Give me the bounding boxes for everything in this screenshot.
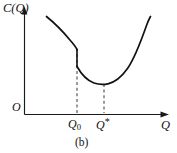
- tick-label-qstar-base: Q: [96, 118, 105, 132]
- tick-label-q0: Q0: [68, 118, 81, 132]
- cost-curve-branch-2: [77, 17, 151, 85]
- tick-label-q0-base: Q: [68, 117, 77, 131]
- origin-label: O: [12, 101, 21, 113]
- x-axis-label: Q: [161, 119, 170, 132]
- tick-label-qstar: Q*: [96, 117, 110, 131]
- cost-curve-branch-1: [47, 17, 78, 50]
- cost-curve-plot: [0, 0, 177, 153]
- tick-label-qstar-superscript: *: [105, 116, 110, 127]
- tick-label-q0-subscript: 0: [77, 122, 81, 132]
- figure-container: C(Q) O Q Q0 Q* (b): [0, 0, 177, 153]
- x-axis-arrowhead: [161, 111, 170, 117]
- y-axis-label: C(Q): [3, 2, 29, 15]
- figure-caption: (b): [75, 137, 88, 149]
